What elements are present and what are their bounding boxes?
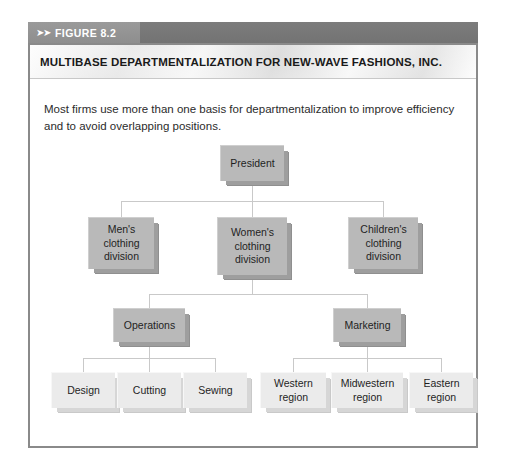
figure-intro-text: Most firms use more than one basis for d… [44, 101, 462, 136]
node-midwestern-region[interactable]: Midwestern region [331, 372, 403, 408]
node-eastern-region[interactable]: Eastern region [409, 372, 473, 408]
node-womens-clothing-division[interactable]: Women's clothing division [217, 217, 287, 275]
figure-title: MULTIBASE DEPARTMENTALIZATION FOR NEW-WA… [40, 56, 442, 68]
node-womens-label-line1: Women's [227, 226, 278, 240]
node-womens-label-line2: clothing [230, 240, 274, 254]
double-chevron-right-icon: ➤➤ [36, 28, 50, 38]
node-childrens-label-line1: Children's [356, 223, 410, 237]
figure-frame: MULTIBASE DEPARTMENTALIZATION FOR NEW-WA… [28, 43, 478, 448]
connector-to-childrens [383, 201, 384, 217]
node-eastern-label-line1: Eastern [419, 377, 463, 391]
org-chart: President Men's clothing division Women'… [30, 131, 476, 446]
node-marketing-label: Marketing [340, 319, 394, 333]
node-eastern-label-line2: region [423, 391, 460, 405]
node-president-label: President [226, 157, 278, 171]
connector-marketing-down [367, 342, 368, 358]
node-womens-label-line3: division [231, 253, 274, 267]
connector-to-sewing [215, 358, 216, 372]
node-midwestern-label-line1: Midwestern [337, 377, 399, 391]
node-midwestern-label-line2: region [349, 391, 386, 405]
connector-to-western [293, 358, 294, 372]
connector-to-cutting [149, 358, 150, 372]
figure-title-bar: MULTIBASE DEPARTMENTALIZATION FOR NEW-WA… [30, 45, 476, 79]
node-mens-label-line3: division [100, 250, 143, 264]
node-operations[interactable]: Operations [113, 308, 185, 342]
connector-president-down [252, 181, 253, 201]
node-western-label-line1: Western [270, 377, 317, 391]
connector-womens-down [252, 275, 253, 294]
node-mens-label-line2: clothing [99, 237, 143, 251]
node-sewing[interactable]: Sewing [183, 372, 247, 408]
node-childrens-label-line2: clothing [361, 237, 405, 251]
node-design[interactable]: Design [51, 372, 115, 408]
node-cutting-label: Cutting [129, 384, 170, 398]
node-cutting[interactable]: Cutting [117, 372, 181, 408]
connector-to-mens [121, 201, 122, 217]
connector-to-design [83, 358, 84, 372]
figure-tab: ➤➤ FIGURE 8.2 [28, 22, 140, 43]
connector-to-marketing [367, 294, 368, 308]
node-mens-clothing-division[interactable]: Men's clothing division [88, 217, 154, 269]
connector-operations-down [149, 342, 150, 358]
node-operations-label: Operations [120, 319, 179, 333]
node-sewing-label: Sewing [194, 384, 236, 398]
node-childrens-label-line3: division [362, 250, 405, 264]
node-childrens-clothing-division[interactable]: Children's clothing division [348, 217, 418, 269]
connector-to-eastern [441, 358, 442, 372]
figure-number-label: FIGURE 8.2 [55, 27, 116, 39]
connector-to-midwestern [367, 358, 368, 372]
node-design-label: Design [63, 384, 104, 398]
connector-to-womens [252, 201, 253, 217]
connector-to-operations [149, 294, 150, 308]
connector-level3-bus [149, 294, 367, 295]
node-marketing[interactable]: Marketing [333, 308, 401, 342]
node-western-label-line2: region [275, 391, 312, 405]
node-president[interactable]: President [220, 145, 284, 181]
node-western-region[interactable]: Western region [260, 372, 326, 408]
node-mens-label-line1: Men's [104, 223, 140, 237]
header-band [140, 22, 478, 43]
